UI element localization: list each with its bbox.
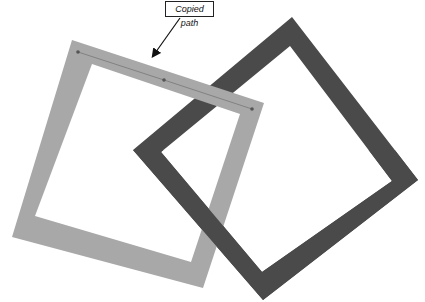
path-anchor-point [76, 50, 80, 54]
path-anchor-point [162, 78, 166, 82]
path-anchor-point [250, 107, 254, 111]
diagram-canvas [0, 0, 425, 302]
callout-arrow [153, 18, 180, 56]
callout-label: Copied path [165, 1, 214, 17]
